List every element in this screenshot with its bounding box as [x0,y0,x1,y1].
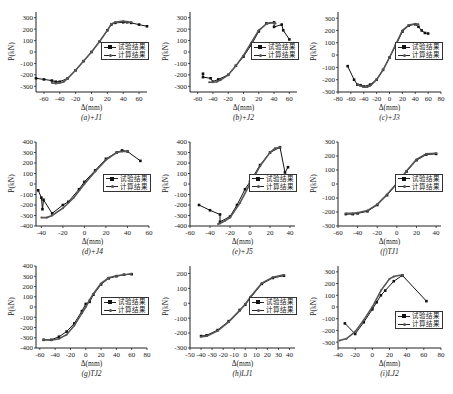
test-marker [42,198,45,201]
x-tick-label: -60 [346,95,356,103]
calc-marker [59,82,61,84]
x-axis-label: Δ(mm) [36,359,147,368]
calc-marker [114,21,116,23]
legend-label-calc: 计算结果 [120,183,148,191]
test-marker [384,289,387,292]
dot-marker-icon [398,186,410,187]
calc-marker [75,69,77,71]
calc-marker [46,217,48,219]
chart-caption: (h)LJ1 [190,369,295,378]
x-tick-label: -30 [207,351,217,359]
calc-marker [339,339,341,341]
square-marker-icon [398,178,410,179]
calc-marker [366,86,368,88]
y-tick-label: -400 [20,344,33,352]
calc-marker [55,82,57,84]
calc-marker [89,299,91,301]
calc-marker [115,275,117,277]
y-axis-label: P(kN) [309,297,318,315]
legend-item-test: 试验结果 [252,298,294,306]
x-tick-label: 60 [420,351,428,359]
test-marker [392,280,395,283]
legend-label-calc: 计算结果 [268,51,296,59]
chart-legend: 试验结果计算结果 [395,311,443,329]
legend-item-calc: 计算结果 [398,183,440,191]
test-marker [202,76,205,79]
legend-label-test: 试验结果 [266,298,294,306]
test-marker [287,166,290,169]
legend-label-test: 试验结果 [120,175,148,183]
y-tick-label: 0 [184,300,188,308]
calc-marker [73,324,75,326]
calc-marker [269,152,271,154]
test-marker [139,160,142,163]
y-tick-label: 300 [325,268,336,276]
test-marker [282,29,285,32]
legend-item-test: 试验结果 [104,298,146,306]
x-tick-label: 0 [395,229,399,237]
y-tick-label: 300 [177,149,188,157]
test-marker [346,65,349,68]
calc-marker [228,321,230,323]
x-tick-label: -20 [58,229,68,237]
x-tick-label: -20 [218,351,228,359]
dot-marker-icon [104,55,116,56]
x-tick-label: 40 [271,95,279,103]
x-tick-label: -40 [353,229,363,237]
dot-marker-icon [104,310,116,311]
calc-marker [272,276,274,278]
x-tick-label: 0 [83,229,87,237]
calc-marker [63,81,65,83]
chart-legend: 试验结果计算结果 [395,174,443,192]
chart-caption: (g)TJ2 [36,369,147,378]
x-tick-label: 20 [267,229,275,237]
test-marker [288,38,291,41]
y-tick-label: -300 [174,212,187,220]
chart-legend: 试验结果计算结果 [249,297,297,315]
x-tick-label: 40 [286,351,294,359]
y-tick-label: -200 [322,327,335,335]
calc-marker [393,276,395,278]
x-axis-label: Δ(mm) [190,237,295,246]
y-axis-label: P(kN) [309,174,318,192]
y-tick-label: -100 [322,64,335,72]
y-axis-label: P(kN) [161,174,170,192]
calc-marker [105,159,107,161]
legend-item-calc: 计算结果 [252,306,294,314]
calc-marker [94,170,96,172]
calc-marker [43,339,45,341]
chart-panel-e: -400-300-200-1000100200300400-60-40-2002… [150,130,300,260]
test-marker [35,77,38,80]
calc-marker [356,84,358,86]
calc-marker [261,282,263,284]
calc-marker [83,183,85,185]
x-tick-label: 30 [275,351,283,359]
calc-marker [116,152,118,154]
x-tick-label: 20 [413,229,421,237]
x-axis-label: Δ(mm) [338,237,441,246]
y-tick-label: -100 [322,194,335,202]
y-tick-label: -100 [20,191,33,199]
x-tick-label: 10 [253,351,261,359]
y-tick-label: 0 [30,303,34,311]
legend-item-test: 试验结果 [252,175,294,183]
calc-marker [85,306,87,308]
chart-caption: (a)+J1 [36,113,147,122]
legend-label-test: 试验结果 [266,175,294,183]
calc-marker [51,82,53,84]
calc-marker [220,79,222,81]
x-tick-label: 0 [388,95,392,103]
calc-marker [357,212,359,214]
x-tick-label: -50 [185,351,195,359]
x-tick-label: -60 [333,229,343,237]
y-tick-label: 200 [177,159,188,167]
y-tick-label: 0 [184,180,188,188]
x-tick-label: -40 [208,95,218,103]
calc-marker [401,274,403,276]
y-tick-label: -100 [20,60,33,68]
calc-marker [91,51,93,53]
chart-legend: 试验结果计算结果 [101,297,149,315]
x-tick-label: 60 [136,95,144,103]
calc-marker [352,212,354,214]
y-tick-label: 100 [23,170,34,178]
